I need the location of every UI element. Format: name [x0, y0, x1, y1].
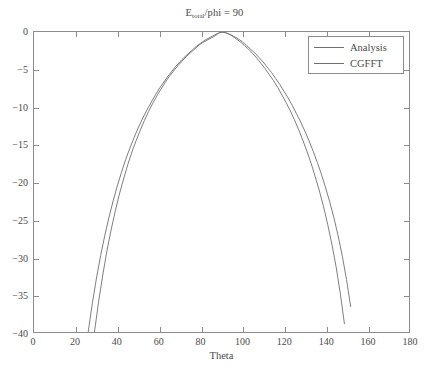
x-tick-mark: [160, 32, 161, 37]
y-tick-mark: [404, 108, 409, 109]
y-tick-label: −25: [12, 214, 28, 225]
x-tick-mark: [202, 327, 203, 332]
y-tick-mark: [404, 183, 409, 184]
y-tick-label: −40: [12, 328, 28, 339]
y-tick-mark: [404, 296, 409, 297]
plot-area: [33, 31, 410, 333]
legend-item-cgfft: CGFFT: [309, 55, 405, 72]
legend-swatch-cgfft: [314, 63, 344, 64]
y-tick-mark: [34, 70, 39, 71]
x-tick-label: 80: [196, 336, 206, 347]
x-tick-mark: [76, 32, 77, 37]
series-line-cgfft: [94, 32, 344, 332]
series-canvas: [34, 32, 409, 332]
y-tick-label: −5: [17, 63, 28, 74]
x-tick-mark: [285, 32, 286, 37]
x-tick-label: 20: [70, 336, 80, 347]
legend-label-analysis: Analysis: [350, 42, 387, 53]
x-axis-label: Theta: [33, 350, 410, 361]
chart-title-subscript: total: [192, 12, 204, 20]
x-tick-label: 40: [112, 336, 122, 347]
x-tick-label: 180: [403, 336, 418, 347]
y-tick-mark: [404, 145, 409, 146]
x-tick-mark: [243, 327, 244, 332]
series-line-analysis: [88, 32, 351, 332]
y-tick-mark: [34, 145, 39, 146]
x-tick-mark: [285, 327, 286, 332]
y-tick-label: −20: [12, 177, 28, 188]
x-tick-mark: [76, 327, 77, 332]
chart-title: Etotal/phi = 90: [0, 7, 429, 20]
y-tick-label: 0: [23, 26, 28, 37]
x-tick-label: 60: [154, 336, 164, 347]
y-tick-label: −35: [12, 290, 28, 301]
legend-label-cgfft: CGFFT: [350, 58, 383, 69]
x-tick-mark: [118, 327, 119, 332]
y-tick-mark: [404, 259, 409, 260]
y-tick-mark: [34, 183, 39, 184]
y-tick-label: −15: [12, 139, 28, 150]
y-tick-mark: [34, 296, 39, 297]
bottom-caption: [6, 366, 306, 374]
figure-canvas: Etotal/phi = 90 020406080100120140160180…: [0, 0, 429, 375]
y-tick-label: −10: [12, 101, 28, 112]
y-tick-mark: [34, 221, 39, 222]
legend-swatch-analysis: [314, 47, 344, 48]
x-tick-mark: [369, 327, 370, 332]
x-tick-mark: [202, 32, 203, 37]
y-tick-mark: [404, 221, 409, 222]
x-tick-mark: [327, 327, 328, 332]
y-tick-label: −30: [12, 252, 28, 263]
x-tick-label: 100: [235, 336, 250, 347]
x-tick-label: 120: [277, 336, 292, 347]
y-tick-mark: [34, 108, 39, 109]
x-tick-label: 140: [319, 336, 334, 347]
x-tick-label: 160: [361, 336, 376, 347]
x-tick-label: 0: [31, 336, 36, 347]
y-tick-mark: [34, 259, 39, 260]
legend: Analysis CGFFT: [308, 36, 404, 74]
chart-title-main-after: /phi = 90: [205, 7, 244, 18]
x-tick-mark: [118, 32, 119, 37]
x-tick-mark: [160, 327, 161, 332]
legend-item-analysis: Analysis: [309, 39, 405, 56]
x-tick-mark: [243, 32, 244, 37]
